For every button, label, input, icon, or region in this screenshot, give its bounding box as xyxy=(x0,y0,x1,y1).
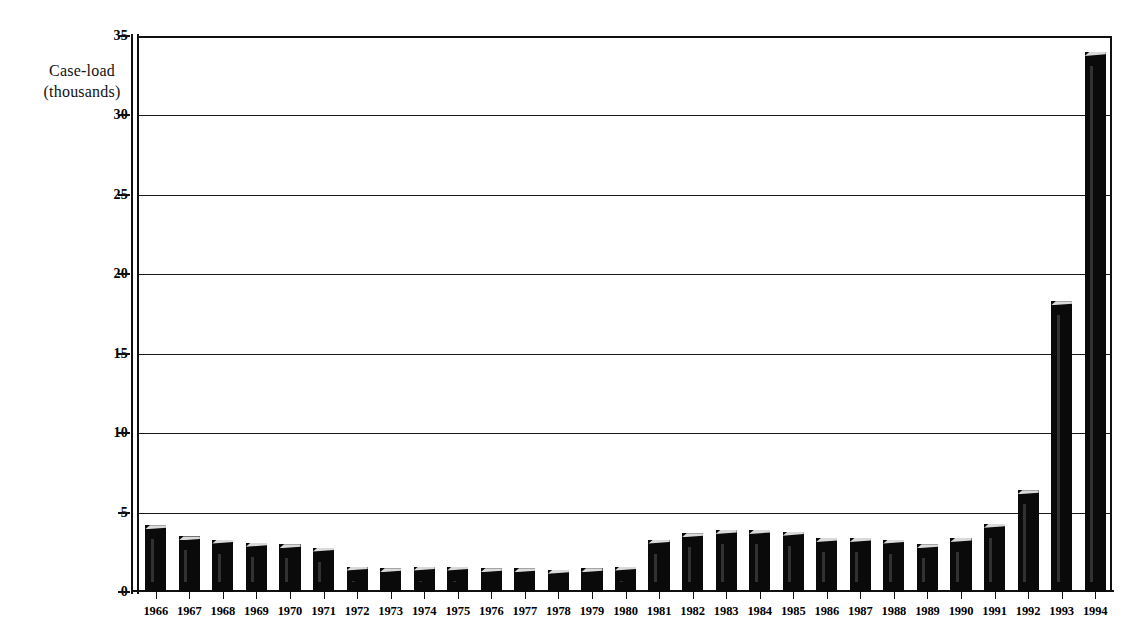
bar xyxy=(514,568,535,592)
x-axis-tick-mark xyxy=(223,592,224,599)
x-axis-tick-mark xyxy=(793,592,794,599)
y-axis-title-line-1: Case-load xyxy=(30,60,134,81)
bar xyxy=(1018,490,1039,592)
x-axis-tick-label: 1983 xyxy=(714,604,739,619)
bar xyxy=(246,543,267,592)
bar xyxy=(279,544,300,592)
x-axis-tick-label: 1984 xyxy=(747,604,772,619)
x-axis-tick-label: 1986 xyxy=(814,604,839,619)
bar xyxy=(447,567,468,592)
y-axis-tick-mark xyxy=(118,432,130,434)
bar xyxy=(950,538,971,592)
x-axis-tick-label: 1994 xyxy=(1083,604,1108,619)
x-axis-tick-label: 1969 xyxy=(244,604,269,619)
bar xyxy=(145,525,166,592)
x-axis-tick-label: 1979 xyxy=(580,604,605,619)
x-axis-tick-mark xyxy=(391,592,392,599)
bar xyxy=(749,530,770,592)
x-axis-tick-mark xyxy=(995,592,996,599)
x-axis-tick-mark xyxy=(592,592,593,599)
x-axis-tick-mark xyxy=(558,592,559,599)
x-axis-tick-mark xyxy=(693,592,694,599)
x-axis-tick-mark xyxy=(357,592,358,599)
bar xyxy=(179,536,200,592)
x-axis-tick-label: 1993 xyxy=(1049,604,1074,619)
bar xyxy=(816,538,837,592)
x-axis-tick-label: 1970 xyxy=(278,604,303,619)
x-axis-tick-label: 1976 xyxy=(479,604,504,619)
bar xyxy=(414,567,435,592)
y-axis-line-outer xyxy=(131,34,133,594)
x-axis-tick-mark xyxy=(827,592,828,599)
y-axis-tick-mark xyxy=(118,35,130,37)
bar xyxy=(682,533,703,592)
bar xyxy=(984,524,1005,592)
x-axis-tick-label: 1992 xyxy=(1016,604,1041,619)
x-axis-tick-mark xyxy=(659,592,660,599)
bar xyxy=(548,570,569,592)
bar xyxy=(1085,52,1106,592)
x-axis-tick-mark xyxy=(424,592,425,599)
x-axis-tick-mark xyxy=(491,592,492,599)
x-axis-tick-label: 1975 xyxy=(445,604,470,619)
x-axis-tick-label: 1988 xyxy=(882,604,907,619)
y-axis-tick-mark xyxy=(118,273,130,275)
x-axis-tick-label: 1974 xyxy=(412,604,437,619)
x-axis-tick-label: 1973 xyxy=(378,604,403,619)
x-axis-tick-label: 1972 xyxy=(345,604,370,619)
x-axis-tick-mark xyxy=(324,592,325,599)
y-axis-tick-mark xyxy=(118,512,130,514)
x-axis-tick-label: 1982 xyxy=(680,604,705,619)
bar xyxy=(581,568,602,592)
y-axis-title: Case-load (thousands) xyxy=(30,60,134,102)
x-axis-tick-label: 1971 xyxy=(311,604,336,619)
x-axis-tick-mark xyxy=(961,592,962,599)
y-axis-title-line-2: (thousands) xyxy=(30,81,134,102)
bar xyxy=(883,540,904,592)
x-axis-tick-mark xyxy=(726,592,727,599)
x-axis-tick-label: 1985 xyxy=(781,604,806,619)
x-axis-tick-label: 1968 xyxy=(211,604,236,619)
x-axis-tick-mark xyxy=(1028,592,1029,599)
x-axis-tick-label: 1987 xyxy=(848,604,873,619)
bar xyxy=(716,530,737,592)
x-axis-tick-mark xyxy=(256,592,257,599)
y-axis-tick-mark xyxy=(118,353,130,355)
bar xyxy=(313,548,334,592)
x-axis-tick-label: 1966 xyxy=(143,604,168,619)
x-axis-tick-label: 1980 xyxy=(613,604,638,619)
x-axis-tick-mark xyxy=(894,592,895,599)
x-axis-tick-label: 1977 xyxy=(513,604,538,619)
bar xyxy=(850,538,871,592)
x-axis-tick-mark xyxy=(525,592,526,599)
x-axis-tick-label: 1981 xyxy=(647,604,672,619)
bars-group xyxy=(139,36,1112,592)
y-axis-tick-mark xyxy=(118,114,130,116)
bar xyxy=(917,544,938,592)
bar xyxy=(380,568,401,592)
bar xyxy=(648,540,669,592)
y-axis-tick-mark xyxy=(118,591,130,593)
bar xyxy=(212,540,233,592)
bar xyxy=(1051,301,1072,592)
x-axis-tick-label: 1978 xyxy=(546,604,571,619)
bar xyxy=(347,567,368,592)
x-axis-tick-label: 1991 xyxy=(982,604,1007,619)
bar-chart-figure: Case-load (thousands) 05101520253035 196… xyxy=(0,0,1144,642)
x-axis-tick-mark xyxy=(458,592,459,599)
x-axis-tick-mark xyxy=(626,592,627,599)
x-axis-tick-mark xyxy=(1062,592,1063,599)
x-axis-tick-mark xyxy=(860,592,861,599)
x-axis-tick-label: 1989 xyxy=(915,604,940,619)
x-axis-tick-mark xyxy=(156,592,157,599)
x-axis-tick-mark xyxy=(760,592,761,599)
x-axis-tick-mark xyxy=(189,592,190,599)
x-axis-tick-mark xyxy=(927,592,928,599)
y-axis-tick-mark xyxy=(118,194,130,196)
bar xyxy=(615,567,636,592)
bar xyxy=(783,532,804,592)
x-axis-tick-mark xyxy=(290,592,291,599)
bar xyxy=(481,568,502,592)
x-axis-tick-label: 1967 xyxy=(177,604,202,619)
x-axis-tick-mark xyxy=(1095,592,1096,599)
